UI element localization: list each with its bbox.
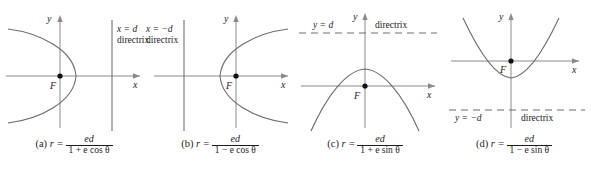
panel-b-plot	[146, 0, 294, 135]
directrix-equation: y = d	[313, 20, 333, 30]
numerator: ed	[521, 134, 538, 145]
panel-d-equation: ed 1 − e sin θ	[507, 134, 552, 155]
x-axis	[451, 58, 579, 64]
focus-point	[362, 83, 367, 88]
x-axis	[301, 83, 435, 89]
panel-b-caption: (b) r = ed 1 − e cos θ	[146, 138, 294, 172]
focus-point	[57, 73, 62, 78]
directrix-word: directrix	[521, 113, 553, 123]
y-axis	[508, 13, 513, 128]
focus-point	[508, 58, 513, 63]
panel-d: y x F y = −d directrix (d) r = ed 1 − e …	[437, 0, 591, 175]
panel-c: y x F y = d directrix (c) r = ed 1 + e s…	[291, 0, 439, 175]
numerator: ed	[227, 134, 244, 145]
directrix-word-wrap: directrix	[375, 20, 407, 31]
x-axis-label: x	[133, 79, 137, 91]
conic-sections-figure: y x F x = d directrix (a) r = ed 1 + e c…	[0, 0, 591, 175]
directrix-equation: x = −d	[146, 24, 173, 34]
denominator: 1 − e sin θ	[507, 146, 552, 156]
panel-c-tag: (c) r =	[327, 138, 355, 149]
directrix-annotation: x = d directrix	[117, 24, 149, 45]
panel-a-equation: ed 1 + e cos θ	[66, 134, 113, 155]
panel-c-equation: ed 1 + e sin θ	[357, 134, 402, 155]
focus-label: F	[354, 90, 360, 102]
directrix-equation: x = d	[117, 24, 137, 34]
panel-c-caption: (c) r = ed 1 + e sin θ	[291, 138, 439, 172]
directrix-annotation: x = −d directrix	[146, 24, 178, 45]
x-axis-label: x	[572, 64, 576, 76]
focus-label: F	[50, 80, 56, 92]
panel-a-plot	[0, 0, 148, 135]
focus-point	[233, 73, 238, 78]
x-axis-label: x	[427, 89, 431, 101]
panel-b-equation: ed 1 − e cos θ	[212, 134, 259, 155]
focus-label: F	[226, 80, 232, 92]
panel-a-caption: (a) r = ed 1 + e cos θ	[0, 138, 148, 172]
directrix-word: directrix	[146, 35, 178, 45]
numerator: ed	[80, 134, 97, 145]
denominator: 1 − e cos θ	[212, 146, 259, 156]
y-axis	[57, 15, 62, 128]
x-axis-label: x	[281, 79, 285, 91]
panel-b: y x F x = −d directrix (b) r = ed 1 − e …	[146, 0, 294, 175]
y-axis	[233, 15, 238, 128]
panel-d-tag: (d) r =	[476, 138, 505, 149]
directrix-word: directrix	[117, 35, 149, 45]
focus-label: F	[500, 64, 506, 76]
denominator: 1 + e sin θ	[357, 146, 402, 156]
x-axis	[6, 73, 140, 79]
y-axis-label: y	[224, 13, 228, 25]
x-axis	[154, 73, 288, 79]
y-axis	[362, 13, 367, 128]
panel-a: y x F x = d directrix (a) r = ed 1 + e c…	[0, 0, 148, 175]
y-axis-label: y	[499, 11, 503, 23]
panel-d-caption: (d) r = ed 1 − e sin θ	[437, 138, 591, 172]
directrix-equation-wrap: y = d	[313, 20, 333, 31]
directrix-equation: y = −d	[455, 113, 482, 123]
panel-b-tag: (b) r =	[181, 138, 210, 149]
numerator: ed	[371, 134, 388, 145]
panel-a-tag: (a) r =	[35, 138, 63, 149]
directrix-word: directrix	[375, 20, 407, 30]
directrix-equation-wrap: y = −d	[455, 113, 482, 124]
y-axis-label: y	[353, 11, 357, 23]
y-axis-label: y	[47, 13, 51, 25]
denominator: 1 + e cos θ	[66, 146, 113, 156]
directrix-word-wrap: directrix	[521, 113, 553, 124]
